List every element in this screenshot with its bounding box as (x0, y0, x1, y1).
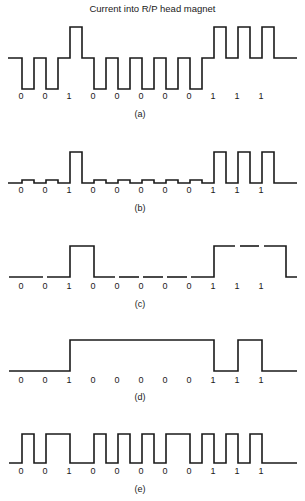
svg-text:0: 0 (186, 466, 191, 476)
caption-c: (c) (135, 299, 146, 309)
svg-text:0: 0 (114, 281, 119, 291)
svg-text:0: 0 (162, 185, 167, 195)
waveform-diagram: 0 0 1 0 0 0 0 0 1 1 1 (a) 0 0 1 0 0 0 0 … (0, 0, 305, 501)
svg-text:0: 0 (186, 91, 191, 101)
svg-text:0: 0 (90, 185, 95, 195)
svg-text:0: 0 (138, 466, 143, 476)
svg-text:0: 0 (162, 281, 167, 291)
caption-a: (a) (135, 109, 146, 119)
waveform-d (9, 340, 297, 371)
svg-text:0: 0 (138, 375, 143, 385)
svg-text:1: 1 (66, 281, 71, 291)
svg-text:1: 1 (234, 466, 239, 476)
svg-text:0: 0 (18, 185, 23, 195)
waveform-a (8, 27, 297, 89)
svg-text:0: 0 (18, 466, 23, 476)
svg-text:1: 1 (258, 91, 263, 101)
svg-text:0: 0 (114, 185, 119, 195)
svg-text:0: 0 (186, 281, 191, 291)
svg-text:1: 1 (210, 466, 215, 476)
svg-text:0: 0 (162, 91, 167, 101)
svg-text:0: 0 (90, 375, 95, 385)
svg-text:0: 0 (138, 91, 143, 101)
bit-labels-d: 0 0 1 0 0 0 0 0 1 1 1 (18, 375, 263, 385)
bit-labels-e: 0 0 1 0 0 0 0 0 1 1 1 (18, 466, 263, 476)
svg-text:0: 0 (18, 91, 23, 101)
svg-text:0: 0 (90, 91, 95, 101)
caption-e: (e) (135, 484, 146, 494)
bit-labels-b: 0 0 1 0 0 0 0 0 1 1 1 (18, 185, 263, 195)
svg-text:1: 1 (234, 375, 239, 385)
svg-text:0: 0 (114, 375, 119, 385)
svg-text:1: 1 (258, 281, 263, 291)
svg-text:1: 1 (210, 185, 215, 195)
svg-text:0: 0 (186, 185, 191, 195)
svg-text:0: 0 (90, 281, 95, 291)
svg-text:1: 1 (66, 375, 71, 385)
svg-text:0: 0 (114, 91, 119, 101)
svg-text:1: 1 (234, 281, 239, 291)
svg-text:0: 0 (162, 466, 167, 476)
svg-text:0: 0 (138, 281, 143, 291)
caption-d: (d) (135, 392, 146, 402)
svg-text:1: 1 (258, 185, 263, 195)
svg-text:0: 0 (186, 375, 191, 385)
waveform-b (8, 152, 297, 183)
svg-text:0: 0 (114, 466, 119, 476)
svg-text:1: 1 (258, 466, 263, 476)
svg-text:0: 0 (138, 185, 143, 195)
svg-text:1: 1 (210, 91, 215, 101)
svg-text:0: 0 (162, 375, 167, 385)
svg-text:1: 1 (210, 281, 215, 291)
svg-text:1: 1 (66, 466, 71, 476)
waveform-c (9, 246, 297, 277)
svg-text:1: 1 (66, 185, 71, 195)
svg-text:1: 1 (258, 375, 263, 385)
svg-text:1: 1 (234, 91, 239, 101)
svg-text:1: 1 (234, 185, 239, 195)
waveform-e (9, 434, 297, 463)
bit-labels-a: 0 0 1 0 0 0 0 0 1 1 1 (18, 91, 263, 101)
svg-text:0: 0 (18, 281, 23, 291)
svg-text:1: 1 (66, 91, 71, 101)
caption-b: (b) (135, 203, 146, 213)
svg-text:0: 0 (42, 185, 47, 195)
svg-text:0: 0 (42, 91, 47, 101)
svg-text:0: 0 (90, 466, 95, 476)
svg-text:0: 0 (42, 375, 47, 385)
svg-text:0: 0 (42, 466, 47, 476)
bit-labels-c: 0 0 1 0 0 0 0 0 1 1 1 (18, 281, 263, 291)
svg-text:0: 0 (42, 281, 47, 291)
svg-text:0: 0 (18, 375, 23, 385)
svg-text:1: 1 (210, 375, 215, 385)
